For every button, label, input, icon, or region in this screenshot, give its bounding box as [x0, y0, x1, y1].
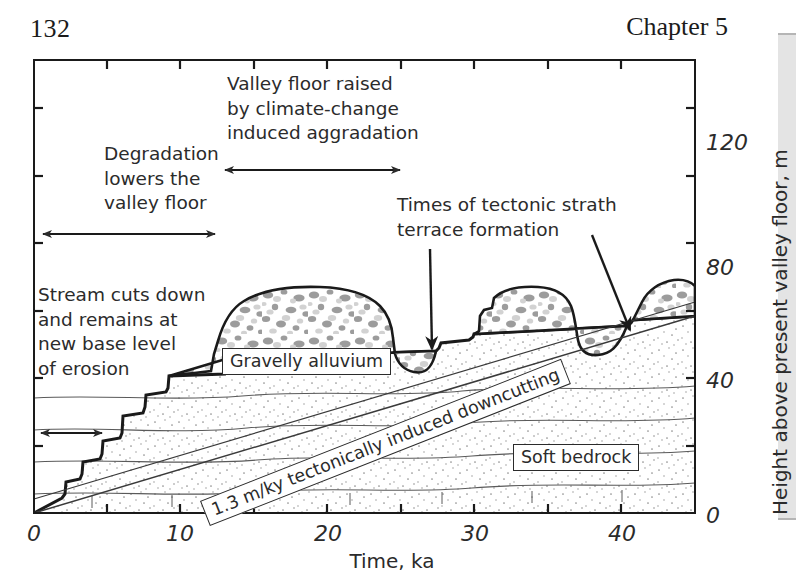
label-gravelly-alluvium: Gravelly alluvium [222, 348, 391, 375]
x-tick-30: 30 [461, 521, 489, 546]
cross-section-figure: Valley floor raised by climate-change in… [32, 58, 697, 515]
y-axis-title: Height above present valley floor, m [768, 149, 792, 515]
y-tick-80: 80 [706, 255, 734, 280]
x-tick-40: 40 [608, 521, 636, 546]
x-axis-title: Time, ka [349, 549, 434, 573]
arrow-strath-terrace-right [592, 235, 630, 330]
x-tick-20: 20 [314, 521, 342, 546]
page-edge-rule-bottom [778, 518, 796, 520]
annotation-degradation: Degradation lowers the valley floor [104, 142, 219, 216]
chapter-heading: Chapter 5 [626, 12, 728, 42]
alluvium-body-third [633, 280, 695, 320]
page-number: 132 [30, 14, 71, 44]
y-tick-120: 120 [706, 130, 748, 155]
x-tick-0: 0 [27, 521, 41, 546]
annotation-stream-cuts-down: Stream cuts down and remains at new base… [38, 283, 205, 381]
page-edge-rule-top [778, 33, 796, 35]
annotation-valley-floor-raised: Valley floor raised by climate-change in… [227, 72, 419, 146]
annotation-tectonic-strath: Times of tectonic strath terrace formati… [397, 193, 617, 242]
x-tick-10: 10 [166, 521, 194, 546]
book-page: 132 Chapter 5 [0, 0, 796, 583]
y-tick-0: 0 [706, 503, 720, 528]
arrow-strath-terrace-left [430, 249, 432, 349]
y-tick-40: 40 [706, 368, 734, 393]
label-soft-bedrock: Soft bedrock [513, 444, 639, 471]
